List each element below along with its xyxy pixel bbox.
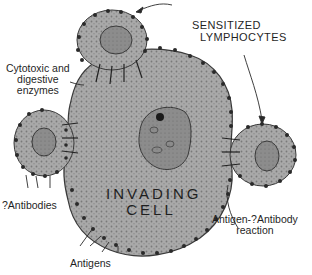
invading-cell-nucleus <box>139 107 191 169</box>
invading-cell-line2: CELL <box>106 202 196 218</box>
cytotoxic-enzymes-label: Cytotoxic and digestive enzymes <box>6 63 70 96</box>
antibodies-label: ?Antibodies <box>2 200 57 211</box>
immune-response-diagram: SENSITIZED LYMPHOCYTES Cytotoxic and dig… <box>0 0 312 275</box>
invading-cell-label: INVADING CELL <box>106 186 196 218</box>
sensitized-pointer-top <box>140 4 172 10</box>
right-lymphocyte <box>222 122 297 188</box>
antigens-label: Antigens <box>70 258 111 269</box>
cytotoxic-line3: enzymes <box>6 85 70 96</box>
reaction-line2: reaction <box>212 225 298 236</box>
sensitized-line1: SENSITIZED <box>192 20 287 32</box>
antigen-antibody-reaction-label: Antigen-?Antibody reaction <box>212 214 298 236</box>
sensitized-pointer-right <box>244 55 262 120</box>
sensitized-line2: LYMPHOCYTES <box>192 32 287 44</box>
invading-cell <box>64 46 233 256</box>
invading-cell-line1: INVADING <box>106 186 196 202</box>
sensitized-lymphocytes-label: SENSITIZED LYMPHOCYTES <box>192 20 287 43</box>
